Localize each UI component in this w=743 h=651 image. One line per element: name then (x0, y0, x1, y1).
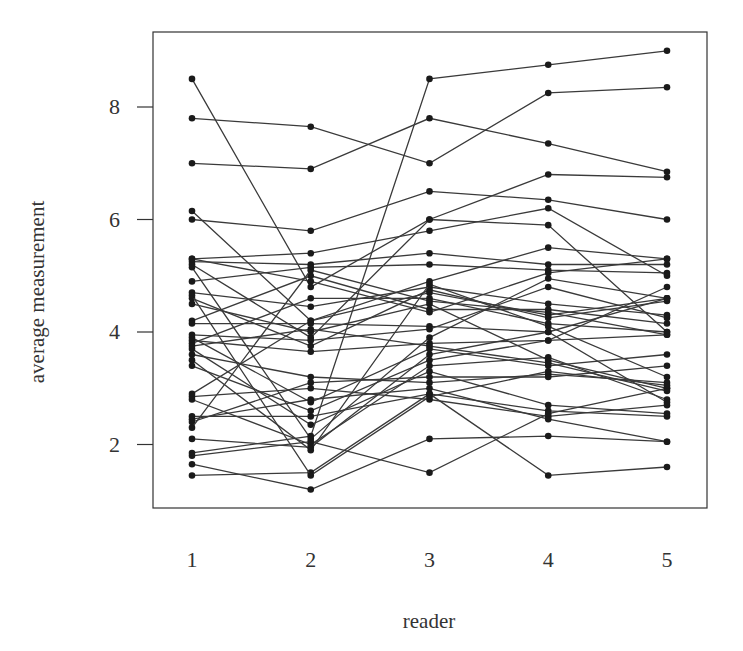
x-tick-label: 2 (305, 547, 316, 572)
data-point (545, 368, 552, 375)
data-point (545, 323, 552, 330)
y-axis: 2468 (109, 94, 153, 457)
data-point (664, 362, 671, 369)
data-point (189, 357, 196, 364)
data-point (307, 317, 314, 324)
data-point (189, 264, 196, 271)
data-point (307, 396, 314, 403)
data-point (545, 309, 552, 316)
data-point (426, 379, 433, 386)
data-point (426, 343, 433, 350)
data-point (664, 351, 671, 358)
x-axis-label: reader (403, 609, 455, 633)
data-point (545, 90, 552, 97)
data-point (189, 216, 196, 223)
data-point (189, 461, 196, 468)
data-point (189, 278, 196, 285)
data-point (307, 343, 314, 350)
data-point (545, 433, 552, 440)
data-point (545, 171, 552, 178)
data-point (189, 396, 196, 403)
data-point (307, 385, 314, 392)
data-point (664, 295, 671, 302)
data-point (426, 436, 433, 443)
data-point (664, 47, 671, 54)
series-s33 (189, 391, 671, 479)
data-point (426, 115, 433, 122)
data-point (664, 284, 671, 291)
data-point (664, 413, 671, 420)
data-point (426, 250, 433, 257)
data-point (307, 348, 314, 355)
data-point (307, 422, 314, 429)
data-point (307, 284, 314, 291)
data-point (426, 281, 433, 288)
data-point (189, 452, 196, 459)
data-point (307, 379, 314, 386)
series-layer (189, 47, 671, 492)
data-point (545, 140, 552, 147)
data-point (545, 301, 552, 308)
data-point (307, 472, 314, 479)
data-point (545, 410, 552, 417)
data-point (189, 292, 196, 299)
data-point (426, 261, 433, 268)
data-point (545, 329, 552, 336)
data-point (426, 374, 433, 381)
data-point (545, 275, 552, 282)
data-point (545, 284, 552, 291)
data-point (189, 436, 196, 443)
data-point (307, 123, 314, 130)
data-point (189, 416, 196, 423)
data-point (307, 250, 314, 257)
data-point (189, 160, 196, 167)
line-chart: 2468 12345 reader average measurement (0, 0, 743, 651)
data-point (189, 351, 196, 358)
data-point (545, 360, 552, 367)
data-point (426, 393, 433, 400)
data-point (426, 357, 433, 364)
data-point (664, 174, 671, 181)
data-point (664, 270, 671, 277)
data-point (545, 354, 552, 361)
data-point (189, 115, 196, 122)
data-point (307, 303, 314, 310)
data-point (426, 309, 433, 316)
data-point (545, 205, 552, 212)
data-point (189, 472, 196, 479)
y-tick-label: 4 (109, 319, 120, 344)
data-point (426, 326, 433, 333)
data-point (545, 62, 552, 69)
data-point (426, 469, 433, 476)
data-point (664, 332, 671, 339)
data-point (189, 256, 196, 263)
data-point (307, 166, 314, 173)
data-point (545, 337, 552, 344)
data-point (426, 76, 433, 83)
data-point (664, 261, 671, 268)
y-axis-label: average measurement (25, 201, 49, 384)
data-point (545, 374, 552, 381)
series-s5 (189, 188, 671, 234)
series-line (192, 394, 667, 476)
data-point (426, 216, 433, 223)
data-point (189, 320, 196, 327)
series-line (192, 87, 667, 163)
data-point (545, 197, 552, 204)
data-point (307, 337, 314, 344)
data-point (307, 486, 314, 493)
series-s2 (189, 84, 671, 167)
x-tick-label: 5 (662, 547, 673, 572)
data-point (664, 315, 671, 322)
x-axis: 12345 (187, 547, 673, 572)
data-point (664, 84, 671, 91)
data-point (307, 278, 314, 285)
data-point (545, 416, 552, 423)
y-tick-label: 2 (109, 432, 120, 457)
data-point (545, 402, 552, 409)
data-point (307, 295, 314, 302)
data-point (664, 438, 671, 445)
data-point (189, 76, 196, 83)
data-point (545, 261, 552, 268)
data-point (664, 320, 671, 327)
